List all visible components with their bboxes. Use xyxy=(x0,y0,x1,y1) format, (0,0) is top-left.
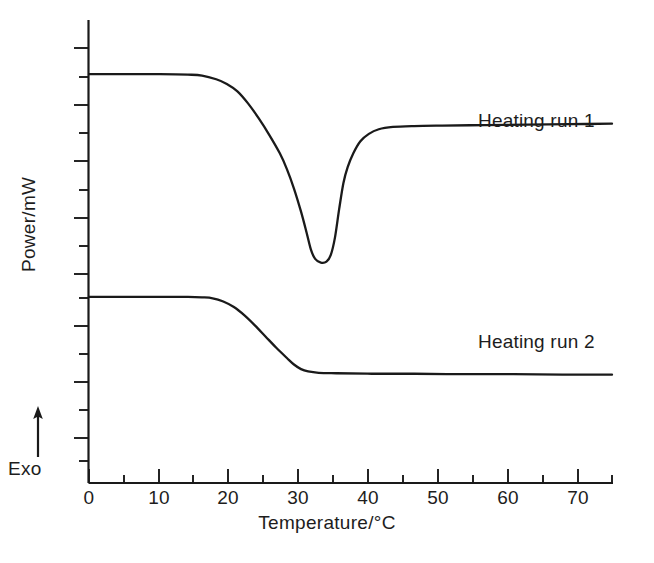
series-curve-heating-run-1 xyxy=(89,74,612,263)
x-tick-label-10: 10 xyxy=(148,487,170,509)
x-tick-label-60: 60 xyxy=(497,487,519,509)
series-label-heating-run-2: Heating run 2 xyxy=(478,331,595,353)
series-label-heating-run-1: Heating run 1 xyxy=(478,110,595,132)
x-axis-ticks xyxy=(89,469,612,483)
x-tick-label-50: 50 xyxy=(427,487,449,509)
x-axis-title: Temperature/°C xyxy=(258,512,395,534)
x-tick-label-20: 20 xyxy=(217,487,239,509)
exo-direction-label: Exo xyxy=(8,458,42,480)
up-arrow-icon xyxy=(33,406,43,457)
x-tick-label-70: 70 xyxy=(567,487,589,509)
plot-canvas xyxy=(0,0,654,563)
y-axis-ticks xyxy=(74,48,89,461)
x-tick-label-40: 40 xyxy=(357,487,379,509)
y-axis-title: Power/mW xyxy=(18,177,40,272)
x-tick-label-0: 0 xyxy=(84,487,95,509)
dsc-thermogram-figure: 0 10 20 30 40 50 60 70 Temperature/°C Po… xyxy=(0,0,654,563)
x-tick-label-30: 30 xyxy=(287,487,309,509)
